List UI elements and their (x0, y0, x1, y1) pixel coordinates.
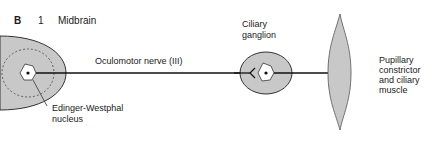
nerve-label: Oculomotor nerve (III) (95, 56, 183, 66)
panel-letter: B (14, 15, 21, 26)
effector-label-line3: and ciliary (379, 75, 420, 85)
nucleus-label-line1: Edinger-Westphal (52, 103, 123, 113)
effector-label-line1: Pupillary (379, 55, 414, 65)
panel-number: 1 (38, 15, 44, 26)
effector-label-line2: constrictor (379, 65, 421, 75)
ganglion-label-line2: ganglion (242, 30, 276, 40)
panel-title: Midbrain (58, 15, 96, 26)
ganglion-label-line1: Ciliary (242, 19, 267, 29)
pupillary-muscle (328, 14, 351, 130)
effector-label-line4: muscle (379, 85, 408, 95)
nucleus-label-line2: nucleus (52, 114, 83, 124)
